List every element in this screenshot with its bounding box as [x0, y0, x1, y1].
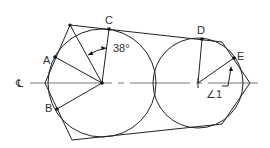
label-d: D — [197, 24, 205, 36]
label-e: E — [237, 50, 244, 62]
angle-38-arc — [88, 46, 106, 55]
point-b — [55, 107, 59, 111]
center-left — [100, 81, 104, 85]
left-radii — [55, 25, 109, 109]
label-centerline: ℄ — [15, 77, 23, 89]
label-a: A — [43, 54, 51, 66]
point-d — [200, 37, 204, 41]
label-38-degrees: 38° — [113, 42, 130, 54]
point-a — [53, 55, 57, 59]
label-angle-1: ∠1 — [206, 88, 222, 100]
tangent-construction-diagram: A B C D E ℄ 38° ∠1 — [0, 0, 270, 148]
label-c: C — [105, 14, 113, 26]
top-left-vertex — [68, 23, 71, 26]
label-b: B — [45, 102, 52, 114]
point-c — [107, 27, 111, 31]
point-e — [232, 56, 236, 60]
